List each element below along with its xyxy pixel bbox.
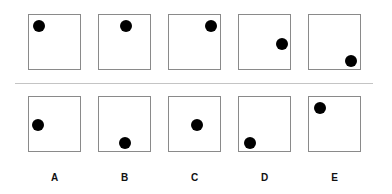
dot-icon (276, 38, 288, 50)
answer-label-a: A (28, 172, 81, 183)
dot-icon (33, 20, 45, 32)
answer-box-b[interactable] (98, 96, 151, 152)
answer-box-d[interactable] (238, 96, 291, 152)
question-box-5 (308, 14, 361, 70)
divider (15, 83, 373, 84)
dot-icon (205, 20, 217, 32)
answer-label-e: E (308, 172, 361, 183)
answer-box-c[interactable] (168, 96, 221, 152)
dot-icon (244, 137, 256, 149)
dot-icon (120, 20, 132, 32)
answer-label-c: C (168, 172, 221, 183)
answer-box-a[interactable] (28, 96, 81, 152)
answer-label-d: D (238, 172, 291, 183)
question-box-2 (98, 14, 151, 70)
question-box-1 (28, 14, 81, 70)
dot-icon (191, 119, 203, 131)
question-box-4 (238, 14, 291, 70)
dot-icon (345, 55, 357, 67)
answer-label-b: B (98, 172, 151, 183)
dot-icon (119, 137, 131, 149)
answer-box-e[interactable] (308, 96, 361, 152)
dot-icon (314, 102, 326, 114)
question-box-3 (168, 14, 221, 70)
dot-icon (32, 119, 44, 131)
